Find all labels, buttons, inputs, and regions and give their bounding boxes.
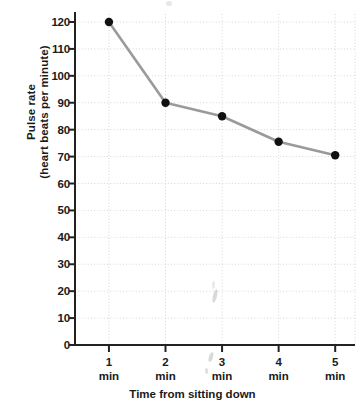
x-axis-title: Time from sitting down — [0, 388, 361, 400]
data-point-markers — [105, 18, 340, 160]
data-series-line — [109, 22, 335, 155]
plot-area — [0, 0, 361, 409]
smudge-artifact-2 — [212, 281, 215, 289]
x-axis-title-text: Time from sitting down — [129, 388, 255, 400]
pulse-rate-line-chart: Pulse rate (heart beats per minute) 0102… — [0, 0, 361, 409]
smudge-artifact-5 — [166, 1, 172, 6]
smudge-artifact-4 — [205, 368, 208, 374]
